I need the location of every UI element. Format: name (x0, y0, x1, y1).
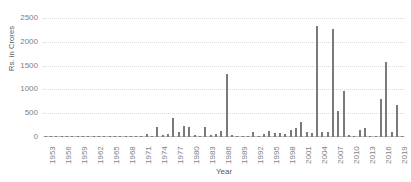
y-axis-title: Rs. in Crores (7, 14, 16, 84)
bar (87, 136, 89, 137)
bar (119, 136, 121, 137)
bar (284, 134, 286, 137)
gridline (43, 113, 405, 114)
bar (364, 128, 366, 137)
y-tick-label: 2000 (0, 38, 38, 46)
bar (45, 136, 47, 137)
x-tick-label: 2010 (353, 146, 361, 164)
bar (359, 130, 361, 137)
x-tick-label: 2004 (321, 146, 329, 164)
bar (311, 133, 313, 137)
bar (396, 105, 398, 137)
bar (385, 62, 387, 137)
bar (343, 91, 345, 137)
bar (348, 135, 350, 137)
x-tick-label: 1974 (161, 146, 169, 164)
plot-area (43, 18, 405, 137)
x-tick-label: 1962 (97, 146, 105, 164)
bar (210, 135, 212, 137)
bar (242, 136, 244, 137)
bar (125, 136, 127, 137)
bar (279, 133, 281, 137)
bar (194, 135, 196, 137)
bar (252, 132, 254, 137)
x-tick-label: 2019 (401, 146, 409, 164)
bar (220, 131, 222, 137)
bar (135, 136, 137, 137)
x-tick-label: 2013 (369, 146, 377, 164)
bar (114, 136, 116, 137)
bar (71, 136, 73, 137)
bar (103, 136, 105, 137)
bar (231, 135, 233, 137)
x-axis-title: Year (44, 167, 404, 176)
x-tick-label: 1965 (113, 146, 121, 164)
bar (93, 136, 95, 137)
bar (391, 132, 393, 137)
bar (295, 128, 297, 137)
bar (188, 127, 190, 137)
x-tick-label: 1998 (289, 146, 297, 164)
bar (178, 132, 180, 137)
x-tick-label: 1959 (81, 146, 89, 164)
bar (401, 136, 403, 137)
bar (66, 136, 68, 137)
bar (247, 136, 249, 137)
bar (337, 111, 339, 137)
bar-chart: Rs. in Crores 05001000150020002500 19531… (0, 0, 411, 182)
x-tick-label: 1956 (65, 146, 73, 164)
bar (268, 131, 270, 137)
bar (55, 136, 57, 137)
bar (321, 132, 323, 137)
bar (353, 136, 355, 137)
bar (369, 136, 371, 137)
bar (263, 134, 265, 137)
bar (77, 136, 79, 137)
bar (167, 134, 169, 137)
bar (306, 132, 308, 137)
bar (199, 136, 201, 137)
x-tick-label: 1995 (273, 146, 281, 164)
bar (146, 134, 148, 137)
y-tick-label: 1000 (0, 85, 38, 93)
y-tick-label: 0 (0, 133, 38, 141)
bar (140, 136, 142, 137)
gridline (43, 18, 405, 19)
bar (226, 74, 228, 137)
bar (82, 136, 84, 137)
x-tick-label: 1983 (209, 146, 217, 164)
bar (274, 133, 276, 137)
bar (380, 99, 382, 137)
bar (61, 136, 63, 137)
gridline (43, 42, 405, 43)
bar (109, 136, 111, 137)
x-tick-label: 2007 (337, 146, 345, 164)
x-tick-label: 1971 (145, 146, 153, 164)
bar (215, 134, 217, 137)
gridline (43, 89, 405, 90)
x-tick-label: 1992 (257, 146, 265, 164)
y-tick-label: 500 (0, 109, 38, 117)
bar (183, 126, 185, 137)
bar (50, 136, 52, 137)
bar (258, 136, 260, 137)
bar (172, 118, 174, 137)
bar (130, 136, 132, 137)
x-axis-ticks: 1953195619591962196519681971197419771980… (43, 139, 405, 167)
bar (332, 29, 334, 137)
gridline (43, 66, 405, 67)
bar (375, 136, 377, 137)
x-tick-label: 1977 (177, 146, 185, 164)
bar (204, 127, 206, 137)
bar (327, 132, 329, 137)
x-tick-label: 2001 (305, 146, 313, 164)
bar (290, 130, 292, 137)
y-tick-label: 2500 (0, 14, 38, 22)
bar (156, 127, 158, 137)
bar (300, 122, 302, 137)
bar (151, 136, 153, 137)
x-tick-label: 1986 (225, 146, 233, 164)
bar (162, 135, 164, 137)
x-tick-label: 1989 (241, 146, 249, 164)
y-tick-label: 1500 (0, 62, 38, 70)
